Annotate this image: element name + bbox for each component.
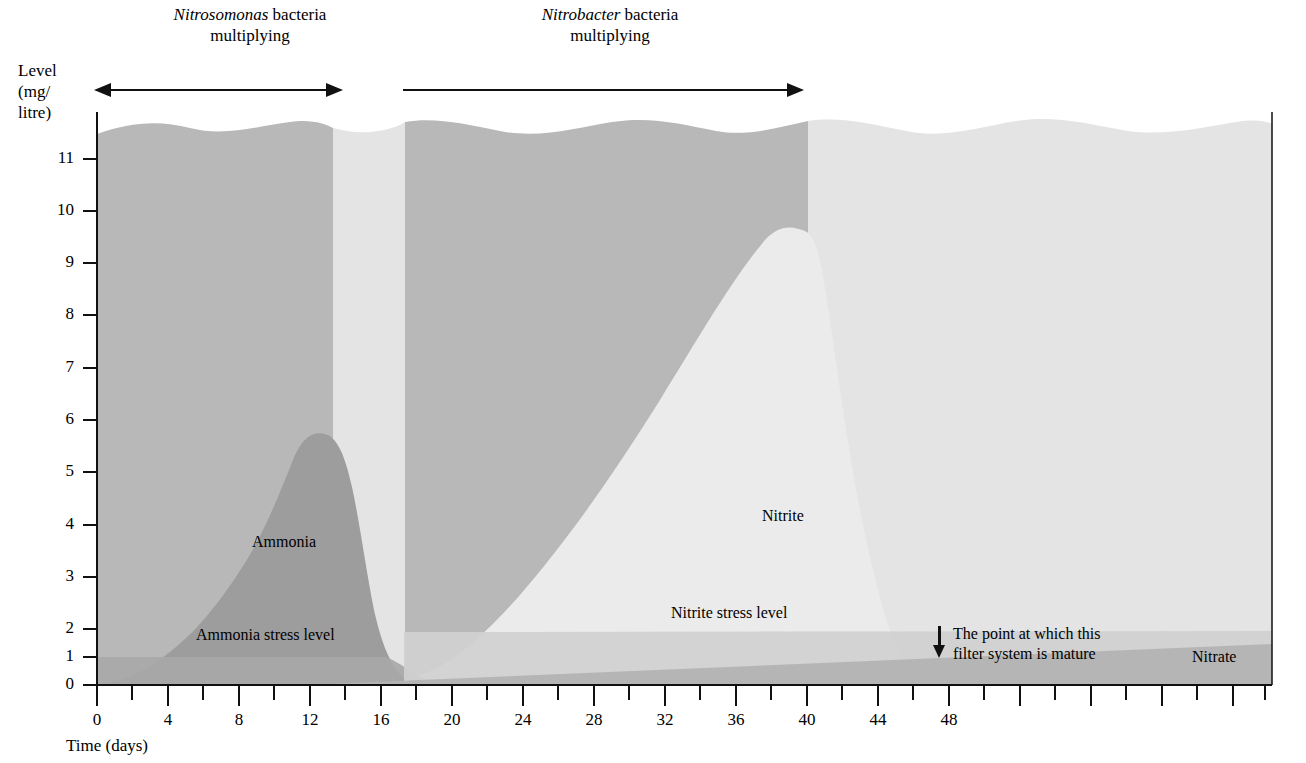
series-label-nitrite-stress: Nitrite stress level (671, 604, 787, 622)
series-label-ammonia: Ammonia (252, 533, 316, 551)
maturity-note: The point at which this filter system is… (953, 624, 1101, 664)
x-tick-label-8: 8 (219, 710, 259, 730)
x-tick-label-16: 16 (361, 710, 401, 730)
y-tick-label-5: 5 (48, 461, 74, 481)
x-tick-marks (97, 685, 1265, 706)
y-tick-label-1: 1 (48, 646, 74, 666)
x-tick-label-44: 44 (858, 710, 898, 730)
series-label-ammonia-stress: Ammonia stress level (196, 626, 335, 644)
x-tick-label-24: 24 (503, 710, 543, 730)
x-tick-label-48: 48 (929, 710, 969, 730)
reference-band-ammonia-stress (97, 657, 436, 685)
y-tick-label-6: 6 (48, 409, 74, 429)
maturity-note-line2: filter system is mature (953, 644, 1101, 664)
chart-plot-area (0, 0, 1306, 763)
y-tick-label-9: 9 (48, 252, 74, 272)
y-tick-label-7: 7 (48, 357, 74, 377)
y-tick-label-8: 8 (48, 304, 74, 324)
x-tick-label-20: 20 (432, 710, 472, 730)
y-tick-label-10: 10 (48, 200, 74, 220)
y-tick-label-4: 4 (48, 514, 74, 534)
maturity-note-line1: The point at which this (953, 624, 1101, 644)
x-tick-label-28: 28 (574, 710, 614, 730)
x-tick-label-36: 36 (716, 710, 756, 730)
y-tick-label-11: 11 (48, 148, 74, 168)
x-tick-label-32: 32 (645, 710, 685, 730)
y-tick-marks (83, 159, 97, 685)
y-tick-label-2: 2 (48, 618, 74, 638)
maturity-arrow-head (933, 645, 945, 658)
y-tick-label-0: 0 (48, 674, 74, 694)
x-tick-label-12: 12 (290, 710, 330, 730)
x-tick-label-0: 0 (77, 710, 117, 730)
y-tick-label-3: 3 (48, 566, 74, 586)
x-tick-label-4: 4 (148, 710, 188, 730)
x-tick-label-40: 40 (787, 710, 827, 730)
series-label-nitrite: Nitrite (762, 507, 804, 525)
series-label-nitrate: Nitrate (1192, 648, 1236, 666)
